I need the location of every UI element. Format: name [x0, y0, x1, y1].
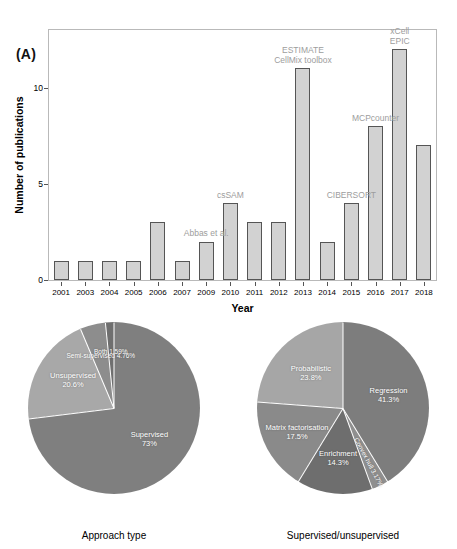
- x-tick-2007: 2007: [173, 288, 191, 297]
- bar-2001: [54, 261, 69, 280]
- bar-2009: [199, 242, 214, 280]
- pie-slice-label-enrichment: Enrichment14.3%: [319, 449, 357, 467]
- pie-label-value: 14.3%: [319, 458, 357, 467]
- bar-annotation-2009: Abbas et al.: [161, 229, 251, 239]
- x-tick-2017: 2017: [391, 288, 409, 297]
- y-tick-10: 10: [34, 83, 43, 93]
- bar-2010: [223, 203, 238, 280]
- figure-root: (A) Number of publications 0510 Abbas et…: [0, 0, 457, 549]
- x-tick-mark: [376, 282, 377, 286]
- pie-label-value: 23.8%: [291, 373, 331, 382]
- x-tick-mark: [85, 282, 86, 286]
- pie-slice-separator: [29, 408, 114, 420]
- pie-slice-label-unsupervised: Unsupervised20.6%: [50, 371, 96, 389]
- pie-slice-label-supervised: Supervised73%: [131, 430, 169, 448]
- bar-2013: [295, 68, 310, 280]
- pie-slice-separator: [298, 408, 344, 482]
- x-tick-2013: 2013: [294, 288, 312, 297]
- pie-slice-label-regression: Regression41.3%: [370, 386, 408, 404]
- x-tick-2011: 2011: [246, 288, 263, 297]
- x-tick-2016: 2016: [367, 288, 385, 297]
- pie-label-name: Matrix factorisation: [266, 423, 329, 432]
- bar-2015: [344, 203, 359, 280]
- y-tick-mark: [44, 88, 48, 89]
- bar-2004: [102, 261, 117, 280]
- panel-b-pie-chart: (B) Supervised73%Unsupervised20.6%Semi-s…: [0, 312, 228, 549]
- x-tick-2018: 2018: [415, 288, 433, 297]
- bar-chart-x-axis: Year 20012003200420052006200720092010201…: [49, 282, 436, 312]
- bar-2007: [175, 261, 190, 280]
- pie-label-name: Unsupervised: [50, 371, 96, 380]
- x-tick-mark: [61, 282, 62, 286]
- annotation-line: MCPcounter: [331, 114, 421, 124]
- x-tick-mark: [279, 282, 280, 286]
- pie-c: Regression41.3%Convex hull 3.17%Enrichme…: [257, 322, 429, 494]
- bar-annotation-2017: xCellEPIC: [355, 27, 445, 46]
- bar-2005: [126, 261, 141, 280]
- bar-2016: [368, 126, 383, 280]
- x-tick-2003: 2003: [76, 288, 94, 297]
- x-tick-2009: 2009: [197, 288, 215, 297]
- bar-2018: [416, 145, 431, 280]
- x-tick-2004: 2004: [101, 288, 119, 297]
- y-tick-5: 5: [38, 179, 43, 189]
- pie-slice-separator: [257, 401, 343, 409]
- annotation-line: Abbas et al.: [161, 229, 251, 239]
- bar-2014: [320, 242, 335, 280]
- x-tick-2010: 2010: [222, 288, 240, 297]
- pie-label-value: 20.6%: [50, 380, 96, 389]
- pie-label-name: Enrichment: [319, 449, 357, 458]
- pie-label-name: Both: [94, 348, 107, 355]
- x-tick-mark: [424, 282, 425, 286]
- pie-label-value: 73%: [131, 439, 169, 448]
- pie-label-value: 1.59%: [107, 348, 127, 355]
- x-tick-mark: [303, 282, 304, 286]
- y-tick-mark: [44, 280, 48, 281]
- pie-label-name: Supervised: [131, 430, 169, 439]
- x-tick-mark: [109, 282, 110, 286]
- x-tick-2015: 2015: [342, 288, 360, 297]
- pie-slice-label-both: Both 1.59%: [94, 347, 128, 356]
- bar-2012: [271, 222, 286, 280]
- x-tick-mark: [182, 282, 183, 286]
- pie-slice-separator: [114, 323, 115, 409]
- pie-label-name: Regression: [370, 386, 408, 395]
- bar-annotation-2015: CIBERSORT: [306, 191, 396, 201]
- x-tick-mark: [158, 282, 159, 286]
- annotation-line: CellMix toolbox: [258, 56, 348, 66]
- x-tick-mark: [255, 282, 256, 286]
- x-tick-mark: [400, 282, 401, 286]
- pie-slice-separator: [343, 323, 344, 409]
- x-tick-mark: [134, 282, 135, 286]
- pie-slice-label-probabilistic: Probabilistic23.8%: [291, 364, 331, 382]
- x-tick-2005: 2005: [125, 288, 143, 297]
- bar-annotation-2010: csSAM: [185, 191, 275, 201]
- pie-slice-label-matrix-factorisation: Matrix factorisation17.5%: [266, 423, 329, 441]
- bar-annotation-2013: ESTIMATECellMix toolbox: [258, 46, 348, 65]
- panel-c-pie-chart: (C) Regression41.3%Convex hull 3.17%Enri…: [229, 312, 457, 549]
- x-tick-2012: 2012: [270, 288, 288, 297]
- pie-b-caption: Approach type: [0, 530, 228, 541]
- pie-label-value: 41.3%: [370, 395, 408, 404]
- annotation-line: csSAM: [185, 191, 275, 201]
- panel-a-bar-chart: (A) Number of publications 0510 Abbas et…: [0, 18, 457, 290]
- x-tick-mark: [327, 282, 328, 286]
- pie-b: Supervised73%Unsupervised20.6%Semi-super…: [28, 322, 200, 494]
- pie-c-wrapper: Regression41.3%Convex hull 3.17%Enrichme…: [257, 322, 429, 494]
- x-tick-mark: [230, 282, 231, 286]
- bar-2017: [392, 49, 407, 280]
- y-tick-mark: [44, 184, 48, 185]
- pie-label-value: 17.5%: [266, 432, 329, 441]
- x-tick-mark: [206, 282, 207, 286]
- x-tick-mark: [351, 282, 352, 286]
- y-axis-label: Number of publications: [13, 70, 25, 240]
- x-tick-2006: 2006: [149, 288, 167, 297]
- bar-chart-y-axis: Number of publications 0510: [0, 29, 48, 281]
- y-tick-0: 0: [38, 275, 43, 285]
- pie-c-caption: Supervised/unsupervised: [229, 530, 457, 541]
- bar-annotation-2016: MCPcounter: [331, 114, 421, 124]
- bar-2003: [78, 261, 93, 280]
- x-tick-2001: 2001: [52, 288, 70, 297]
- annotation-line: EPIC: [355, 37, 445, 47]
- pie-b-wrapper: Supervised73%Unsupervised20.6%Semi-super…: [28, 322, 200, 494]
